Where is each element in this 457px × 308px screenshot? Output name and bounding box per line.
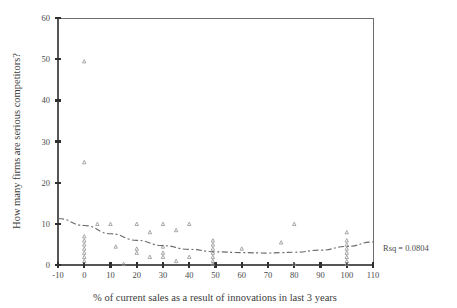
plot-canvas: 0 10 20 30 40 50 60 -10 0 10 [0,0,457,308]
scatter-marker [211,243,214,246]
y-tick-label: 20 [42,178,51,188]
scatter-marker [83,243,86,246]
scatter-marker [83,247,86,250]
x-tick-label: 70 [264,270,273,280]
scatter-marker [161,222,164,225]
x-tick-label: 60 [238,270,247,280]
y-tick-label: 40 [42,95,51,105]
x-tick-label: 110 [367,270,379,280]
scatter-marker [135,247,138,250]
y-axis-title: How many firms are serious competitors? [11,53,22,229]
scatter-marker [161,251,164,254]
x-axis-tick-labels: -10 0 10 20 30 40 50 60 70 80 90 100 110 [52,270,379,280]
scatter-marker [135,222,138,225]
data-points-layer [83,60,349,266]
scatter-marker [174,228,177,231]
y-tick-label: 50 [42,54,51,64]
scatter-marker [83,160,86,163]
scatter-marker [135,251,138,254]
scatter-plot-figure: 0 10 20 30 40 50 60 -10 0 10 [0,0,457,308]
y-tick-label: 60 [42,13,51,23]
x-tick-label: -10 [52,270,63,280]
x-tick-label: 90 [316,270,325,280]
y-tick-label: 30 [42,137,51,147]
y-tick-label: 10 [42,219,51,229]
scatter-marker [188,222,191,225]
plot-frame [58,18,373,265]
x-tick-label: 30 [159,270,168,280]
scatter-marker [293,222,296,225]
rsq-annotation: Rsq = 0.0804 [383,243,429,253]
scatter-marker [174,259,177,262]
scatter-marker [83,60,86,63]
x-tick-label: 100 [340,270,353,280]
x-tick-label: 10 [106,270,115,280]
scatter-marker [345,243,348,246]
scatter-marker [96,222,99,225]
scatter-marker [109,222,112,225]
scatter-marker [114,245,117,248]
x-tick-label: 80 [290,270,299,280]
scatter-marker [345,230,348,233]
scatter-marker [240,247,243,250]
x-tick-label: 50 [211,270,220,280]
scatter-marker [345,239,348,242]
scatter-marker [345,251,348,254]
x-tick-label: 0 [82,270,86,280]
x-tick-label: 40 [185,270,194,280]
y-axis-tick-labels: 0 10 20 30 40 50 60 [42,13,51,270]
scatter-marker [211,239,214,242]
scatter-marker [161,255,164,258]
scatter-marker [148,255,151,258]
y-tick-label: 0 [46,260,50,270]
scatter-marker [83,239,86,242]
regression-fit-curve [58,218,373,253]
scatter-marker [345,255,348,258]
scatter-marker [211,247,214,250]
scatter-marker [279,241,282,244]
x-axis-title: % of current sales as a result of innova… [93,292,337,303]
scatter-marker [188,255,191,258]
scatter-marker [83,255,86,258]
scatter-marker [211,255,214,258]
x-tick-label: 20 [133,270,142,280]
scatter-marker [83,251,86,254]
scatter-marker [83,234,86,237]
scatter-marker [148,230,151,233]
scatter-marker [345,247,348,250]
